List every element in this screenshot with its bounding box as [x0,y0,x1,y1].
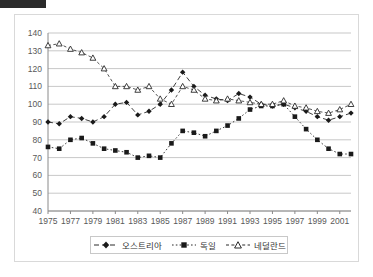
data-point-germany [113,148,118,153]
y-axis-tick-label: 130 [28,46,42,56]
data-point-netherlands [225,96,231,101]
x-axis-tick-label: 1999 [308,216,327,226]
data-point-austria [337,114,342,119]
legend-key-netherlands [225,240,251,250]
data-point-germany [147,154,152,159]
x-axis-tick-label: 1991 [218,216,237,226]
x-axis-tick-label: 1985 [151,216,170,226]
data-point-germany [91,141,96,146]
data-point-austria [68,114,73,119]
data-point-germany [326,146,331,151]
data-point-germany [349,152,354,157]
data-point-germany [236,116,241,121]
data-point-austria [90,119,95,124]
data-point-austria [101,114,106,119]
data-point-germany [293,114,298,119]
x-axis-tick-label: 1997 [285,216,304,226]
legend-item-germany[interactable]: 독일 [171,239,216,251]
data-point-netherlands [157,96,163,101]
data-point-germany [225,123,230,128]
data-point-austria [315,114,320,119]
data-point-netherlands [292,103,298,108]
data-point-austria [348,110,353,115]
x-axis-tick-label: 1983 [128,216,147,226]
y-axis-tick-label: 40 [33,206,43,216]
data-point-germany [46,145,51,150]
y-axis-tick-label: 50 [33,188,43,198]
data-point-germany [315,138,320,143]
y-axis-tick-label: 60 [33,170,43,180]
x-axis-tick-label: 1989 [196,216,215,226]
x-axis-tick-label: 1977 [61,216,80,226]
data-point-germany [124,150,129,155]
data-point-netherlands [90,55,96,60]
data-point-germany [135,155,140,160]
data-point-germany [203,134,208,139]
x-axis-tick-label: 1987 [173,216,192,226]
data-point-netherlands [281,98,287,103]
data-point-austria [79,116,84,121]
x-axis-tick-label: 2001 [330,216,349,226]
data-point-germany [79,136,84,141]
x-axis-tick-label: 1975 [39,216,58,226]
data-point-germany [169,141,174,146]
chart-legend: 오스트리아 독일 네덜란드 [90,236,288,254]
data-point-germany [304,127,309,132]
legend-label-germany: 독일 [200,239,216,251]
y-axis-tick-label: 140 [28,28,42,38]
x-axis-tick-label: 1995 [263,216,282,226]
y-axis-tick-label: 120 [28,64,42,74]
data-point-germany [57,146,62,151]
legend-key-austria [93,240,119,250]
data-point-austria [135,112,140,117]
series-line-austria [48,72,351,124]
data-point-netherlands [56,41,62,46]
data-point-germany [180,129,185,134]
data-point-germany [337,152,342,157]
y-axis-tick-label: 70 [33,153,43,163]
y-axis-tick-label: 80 [33,135,43,145]
data-point-germany [102,146,107,151]
data-point-germany [68,138,73,143]
y-axis-tick-label: 110 [28,81,42,91]
data-point-netherlands [337,107,343,112]
x-axis-tick-label: 1993 [241,216,260,226]
y-axis-tick-label: 100 [28,99,42,109]
legend-item-netherlands[interactable]: 네덜란드 [225,239,286,251]
legend-label-netherlands: 네덜란드 [254,239,286,251]
data-point-germany [248,107,253,112]
y-axis-tick-label: 90 [33,117,43,127]
series-line-netherlands [48,44,351,113]
data-point-netherlands [68,46,74,51]
data-point-germany [192,130,197,135]
x-axis-tick-label: 1979 [83,216,102,226]
x-axis-tick-label: 1981 [106,216,125,226]
data-point-austria [146,109,151,114]
legend-item-austria[interactable]: 오스트리아 [93,239,162,251]
data-point-germany [158,155,163,160]
data-point-germany [214,129,219,134]
data-point-austria [45,119,50,124]
legend-key-germany [171,240,197,250]
legend-label-austria: 오스트리아 [122,239,162,251]
data-point-austria [236,91,241,96]
data-point-netherlands [202,96,208,101]
